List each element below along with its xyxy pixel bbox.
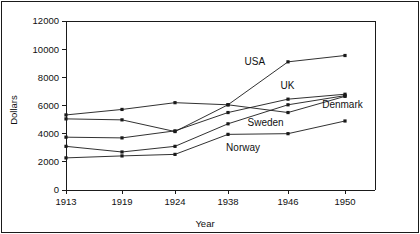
series-marker (286, 103, 289, 106)
y-tick-label: 12000 (33, 15, 59, 26)
y-tick-label: 10000 (33, 44, 59, 55)
series-marker (286, 98, 289, 101)
series-marker (120, 154, 123, 157)
series-label: Sweden (248, 117, 284, 128)
series-label: Denmark (322, 99, 364, 110)
series-marker (120, 136, 123, 139)
series-marker (64, 113, 67, 116)
series-marker (173, 129, 176, 132)
series-marker (286, 132, 289, 135)
series-marker (120, 150, 123, 153)
series-marker (173, 145, 176, 148)
x-tick-label: 1913 (55, 196, 76, 207)
series-label: Norway (226, 142, 260, 153)
x-tick-label: 1919 (111, 196, 132, 207)
x-tick-label: 1924 (164, 196, 185, 207)
series-marker (226, 111, 229, 114)
series-marker (226, 133, 229, 136)
y-tick-label: 4000 (38, 128, 59, 139)
line-chart: 0200040006000800010000120001913191919241… (0, 0, 420, 234)
series-marker (120, 108, 123, 111)
y-axis-title: Dollars (8, 95, 19, 125)
x-axis-title: Year (195, 218, 214, 229)
y-tick-label: 0 (54, 184, 59, 195)
series-marker (64, 145, 67, 148)
x-tick-label: 1938 (217, 196, 238, 207)
x-tick-label: 1946 (277, 196, 298, 207)
series-marker (64, 156, 67, 159)
series-marker (286, 111, 289, 114)
series-marker (343, 54, 346, 57)
series-label: UK (281, 80, 295, 91)
x-tick-label: 1950 (334, 196, 355, 207)
series-marker (64, 117, 67, 120)
series-marker (343, 94, 346, 97)
y-tick-label: 2000 (38, 156, 59, 167)
series-marker (286, 60, 289, 63)
series-marker (120, 118, 123, 121)
series-marker (173, 153, 176, 156)
y-tick-label: 8000 (38, 72, 59, 83)
series-label: USA (245, 56, 266, 67)
series-marker (226, 103, 229, 106)
series-marker (173, 101, 176, 104)
series-marker (226, 122, 229, 125)
series-marker (343, 119, 346, 122)
series-marker (64, 136, 67, 139)
y-tick-label: 6000 (38, 100, 59, 111)
